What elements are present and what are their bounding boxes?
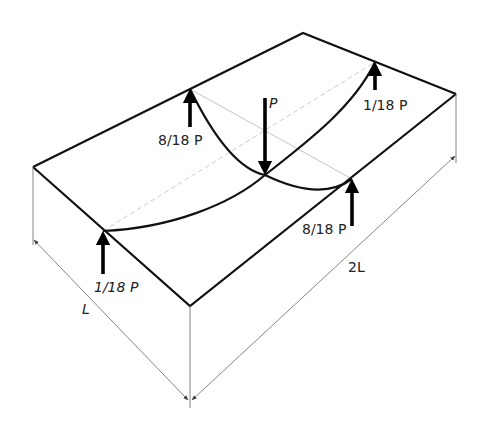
bottom-right-reaction-label: 8/18 P xyxy=(302,221,346,237)
slab-diagram: P 8/18 P 1/18 P 1/18 P 8/18 P L 2L xyxy=(0,0,484,423)
slab-side-edges xyxy=(33,94,456,408)
bottom-left-reaction-label: 1/18 P xyxy=(94,279,139,295)
dimension-lines xyxy=(34,156,455,400)
long-dimension-label: 2L xyxy=(348,259,365,275)
slab-front-edges xyxy=(33,94,456,306)
labels: P 8/18 P 1/18 P 1/18 P 8/18 P L 2L xyxy=(82,95,407,317)
short-dimension-label: L xyxy=(82,301,90,317)
center-load-label: P xyxy=(269,95,278,111)
top-left-reaction-label: 8/18 P xyxy=(158,132,202,148)
guide-lines xyxy=(103,62,375,231)
dimension-line-L xyxy=(34,240,188,400)
diagonal-guide-line xyxy=(103,62,375,231)
dimension-line-2L xyxy=(192,156,455,400)
force-arrows xyxy=(103,69,375,274)
slab-top-face xyxy=(33,33,456,306)
top-right-reaction-label: 1/18 P xyxy=(363,97,407,113)
